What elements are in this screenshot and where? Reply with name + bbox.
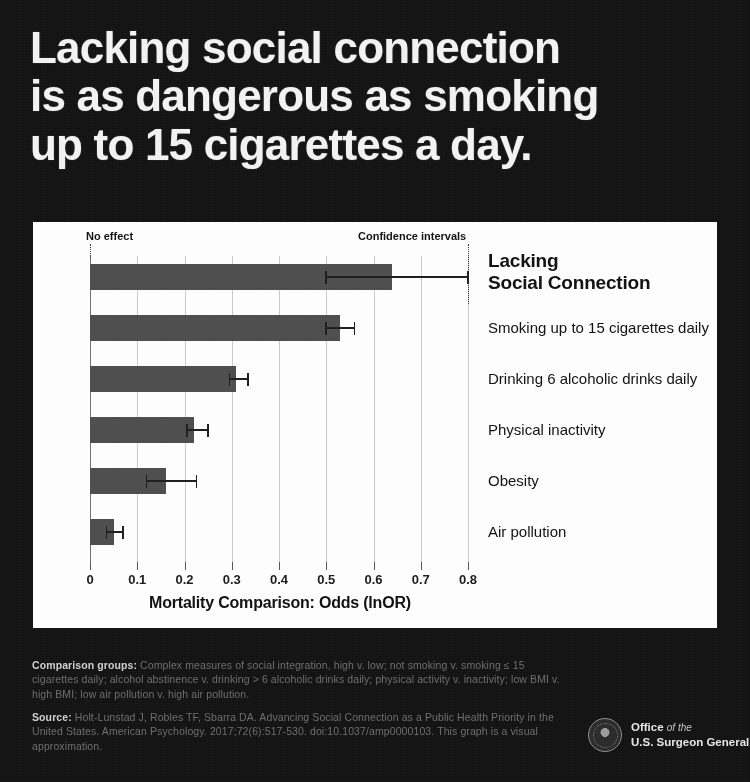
x-axis-tick-label: 0 bbox=[86, 572, 93, 587]
x-axis-tick bbox=[374, 562, 375, 570]
x-axis-tick-label: 0.2 bbox=[175, 572, 193, 587]
footnote-source-text: Holt-Lunstad J, Robles TF, Sbarra DA. Ad… bbox=[32, 711, 554, 752]
category-label: Obesity bbox=[488, 472, 539, 489]
footnote-source-label: Source: bbox=[32, 711, 72, 723]
error-bar bbox=[147, 480, 197, 482]
error-bar-cap bbox=[207, 424, 209, 437]
x-axis-tick bbox=[185, 562, 186, 570]
x-axis-tick bbox=[421, 562, 422, 570]
x-axis-tick-label: 0.4 bbox=[270, 572, 288, 587]
annotation-leader-line bbox=[90, 244, 91, 258]
wordmark-line-1-italic: of the bbox=[667, 722, 692, 733]
error-bar bbox=[229, 378, 248, 380]
error-bar-cap bbox=[325, 271, 327, 284]
error-bar-cap bbox=[229, 373, 231, 386]
wordmark-line-1: Office bbox=[631, 721, 664, 733]
x-axis-tick bbox=[232, 562, 233, 570]
error-bar bbox=[326, 276, 468, 278]
x-axis-tick bbox=[468, 562, 469, 570]
chart-panel: 00.10.20.30.40.50.60.70.8Mortality Compa… bbox=[33, 222, 717, 628]
gridline bbox=[185, 256, 186, 562]
x-axis-title: Mortality Comparison: Odds (lnOR) bbox=[90, 594, 470, 612]
x-axis-tick bbox=[137, 562, 138, 570]
error-bar-cap bbox=[186, 424, 188, 437]
plot-area: 00.10.20.30.40.50.60.70.8Mortality Compa… bbox=[33, 222, 717, 628]
gridline bbox=[232, 256, 233, 562]
x-axis-tick-label: 0.1 bbox=[128, 572, 146, 587]
axis-zero-line bbox=[90, 256, 91, 562]
category-label: Smoking up to 15 cigarettes daily bbox=[488, 319, 709, 336]
bar bbox=[90, 315, 340, 341]
gridline bbox=[374, 256, 375, 562]
infographic-poster: Lacking social connection is as dangerou… bbox=[0, 0, 750, 782]
x-axis-tick bbox=[90, 562, 91, 570]
x-axis-tick-label: 0.6 bbox=[364, 572, 382, 587]
error-bar bbox=[107, 531, 124, 533]
x-axis-tick bbox=[279, 562, 280, 570]
headline-line-2: is as dangerous as smoking bbox=[30, 72, 730, 120]
headline-line-1: Lacking social connection bbox=[30, 24, 730, 72]
surgeon-general-wordmark: Office of the U.S. Surgeon General bbox=[631, 720, 749, 750]
gridline bbox=[421, 256, 422, 562]
x-axis-tick-label: 0.8 bbox=[459, 572, 477, 587]
headline-line-3: up to 15 cigarettes a day. bbox=[30, 121, 730, 169]
error-bar-cap bbox=[467, 271, 469, 284]
footnote-comparison-groups: Comparison groups: Complex measures of s… bbox=[32, 658, 572, 701]
gridline bbox=[137, 256, 138, 562]
gridline bbox=[326, 256, 327, 562]
footnote-source: Source: Holt-Lunstad J, Robles TF, Sbarr… bbox=[32, 710, 572, 753]
error-bar-cap bbox=[247, 373, 249, 386]
surgeon-general-seal-icon bbox=[588, 718, 622, 752]
page-title: Lacking social connection is as dangerou… bbox=[30, 24, 730, 169]
error-bar-cap bbox=[122, 526, 124, 539]
chart-annotation: Confidence intervals bbox=[358, 230, 466, 242]
error-bar-cap bbox=[106, 526, 108, 539]
bar bbox=[90, 366, 236, 392]
error-bar-cap bbox=[354, 322, 356, 335]
x-axis-tick-label: 0.7 bbox=[412, 572, 430, 587]
category-label: Air pollution bbox=[488, 523, 566, 540]
error-bar-cap bbox=[196, 475, 198, 488]
x-axis-tick bbox=[326, 562, 327, 570]
category-label: Physical inactivity bbox=[488, 421, 606, 438]
x-axis-tick-label: 0.5 bbox=[317, 572, 335, 587]
error-bar bbox=[187, 429, 208, 431]
surgeon-general-branding: Office of the U.S. Surgeon General bbox=[588, 718, 749, 752]
footnote-comparison-label: Comparison groups: bbox=[32, 659, 137, 671]
x-axis-tick-label: 0.3 bbox=[223, 572, 241, 587]
wordmark-line-2: U.S. Surgeon General bbox=[631, 736, 749, 748]
category-label: LackingSocial Connection bbox=[488, 250, 650, 294]
error-bar-cap bbox=[146, 475, 148, 488]
chart-annotation: No effect bbox=[86, 230, 133, 242]
bar bbox=[90, 417, 194, 443]
category-label: Drinking 6 alcoholic drinks daily bbox=[488, 370, 697, 387]
gridline bbox=[279, 256, 280, 562]
error-bar bbox=[326, 327, 354, 329]
error-bar-cap bbox=[325, 322, 327, 335]
